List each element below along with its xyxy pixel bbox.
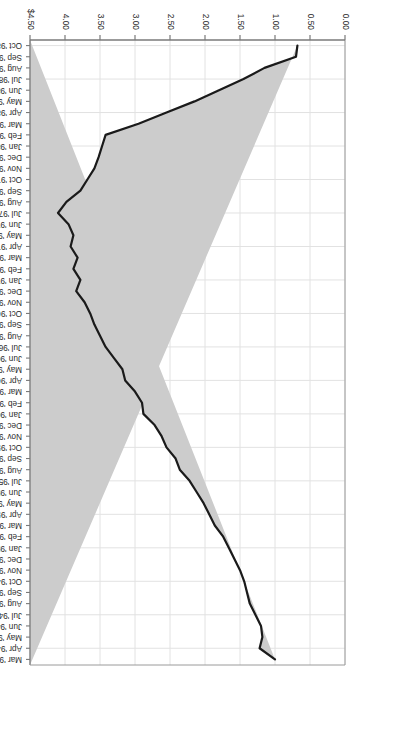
- category-tick-label: Sep '94: [0, 588, 22, 597]
- category-tick-label: Aug '94: [0, 599, 22, 608]
- category-tick-label: Sep '95: [0, 454, 22, 463]
- value-tick-label: 3.00: [131, 14, 141, 31]
- category-tick-label: Aug '98: [0, 64, 22, 73]
- category-tick-label: Apr '95: [0, 510, 22, 519]
- category-tick-label: May '98: [0, 97, 22, 106]
- category-tick-label: Oct '98: [0, 41, 22, 50]
- category-tick-label: Feb '95: [0, 532, 22, 541]
- category-tick-label: Feb '96: [0, 399, 22, 408]
- category-tick-label: Mar '94: [0, 655, 22, 664]
- category-tick-label: Jun '98: [0, 86, 22, 95]
- category-tick-label: Mar '98: [0, 120, 22, 129]
- value-tick-label: 2.50: [166, 14, 176, 31]
- category-tick-label: Jul '95: [0, 477, 22, 486]
- category-tick-label: Jan '96: [0, 410, 22, 419]
- category-tick-label: Dec '95: [0, 421, 22, 430]
- category-tick-label: Jan '98: [0, 142, 22, 151]
- value-tick-label: 4.00: [61, 14, 71, 31]
- category-tick-label: Jan '95: [0, 544, 22, 553]
- category-tick-label: Jul '98: [0, 75, 22, 84]
- value-tick-label: 2.00: [201, 14, 211, 31]
- rotated-figure-container: $4.504.003.503.002.502.001.501.000.500.0…: [0, 0, 419, 731]
- category-tick-label: Feb '97: [0, 265, 22, 274]
- category-tick-label: Oct '95: [0, 443, 22, 452]
- category-tick-label: Jun '94: [0, 622, 22, 631]
- value-tick-label: 3.50: [96, 14, 106, 31]
- category-tick-label: Sep '97: [0, 186, 22, 195]
- category-tick-label: Jun '96: [0, 354, 22, 363]
- category-tick-label: Jun '97: [0, 220, 22, 229]
- value-tick-label: 1.50: [236, 14, 246, 31]
- category-tick-label: Apr '98: [0, 108, 22, 117]
- category-tick-label: Aug '97: [0, 198, 22, 207]
- category-tick-label: Sep '96: [0, 320, 22, 329]
- category-tick-label: Jul '96: [0, 343, 22, 352]
- category-tick-label: Jun '95: [0, 488, 22, 497]
- category-tick-label: Jul '94: [0, 611, 22, 620]
- category-tick-label: Apr '94: [0, 644, 22, 653]
- category-tick-label: Nov '96: [0, 298, 22, 307]
- category-tick-label: May '96: [0, 365, 22, 374]
- category-tick-label: Jan '97: [0, 276, 22, 285]
- category-tick-label: Feb '98: [0, 131, 22, 140]
- category-tick-label: Oct '96: [0, 309, 22, 318]
- value-tick-label: $4.50: [26, 9, 36, 30]
- category-tick-label: Dec '97: [0, 153, 22, 162]
- category-tick-label: Oct '97: [0, 175, 22, 184]
- value-tick-label: 1.00: [271, 14, 281, 31]
- category-tick-label: Mar '95: [0, 521, 22, 530]
- category-tick-label: Jul '97: [0, 209, 22, 218]
- category-tick-label: Mar '96: [0, 387, 22, 396]
- category-tick-label: May '94: [0, 633, 22, 642]
- category-tick-label: Nov '97: [0, 164, 22, 173]
- category-tick-label: May '97: [0, 231, 22, 240]
- category-tick-label: Dec '96: [0, 287, 22, 296]
- category-tick-label: Dec '94: [0, 555, 22, 564]
- category-tick-label: Nov '95: [0, 432, 22, 441]
- category-tick-label: Apr '96: [0, 376, 22, 385]
- category-tick-label: Mar '97: [0, 253, 22, 262]
- category-tick-label: Oct '94: [0, 577, 22, 586]
- category-tick-label: Nov '94: [0, 566, 22, 575]
- category-tick-label: Aug '95: [0, 466, 22, 475]
- category-tick-label: Aug '96: [0, 332, 22, 341]
- value-tick-label: 0.00: [341, 14, 351, 31]
- category-tick-label: May '95: [0, 499, 22, 508]
- value-tick-label: 0.50: [306, 14, 316, 31]
- category-tick-label: Sep '98: [0, 53, 22, 62]
- category-tick-label: Apr '97: [0, 242, 22, 251]
- area-chart: $4.504.003.503.002.502.001.501.000.500.0…: [0, 0, 419, 731]
